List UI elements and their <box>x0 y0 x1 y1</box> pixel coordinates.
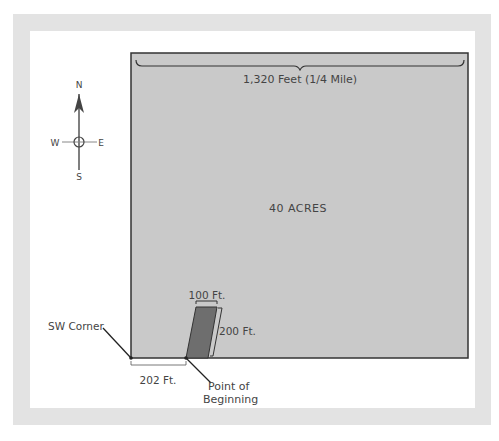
compass-south: S <box>76 172 82 182</box>
pob-label-line1: Point of <box>208 380 251 393</box>
compass-rose: N S W E <box>51 80 105 182</box>
compass-west: W <box>51 138 60 148</box>
compass-east: E <box>98 138 104 148</box>
lot-depth-label: 200 Ft. <box>219 325 256 337</box>
parcel-width-label: 1,320 Feet (1/4 Mile) <box>243 73 357 86</box>
sw-corner-leader <box>103 328 131 358</box>
offset-bracket <box>131 361 186 365</box>
offset-label: 202 Ft. <box>140 374 177 386</box>
parcel-area-label: 40 ACRES <box>269 202 327 215</box>
lot-width-label: 100 Ft. <box>189 289 226 301</box>
pob-label-line2: Beginning <box>203 393 258 406</box>
survey-diagram: 1,320 Feet (1/4 Mile) 40 ACRES 100 Ft. 2… <box>0 0 499 441</box>
sw-corner-label: SW Corner <box>48 320 104 332</box>
compass-north: N <box>76 80 83 90</box>
